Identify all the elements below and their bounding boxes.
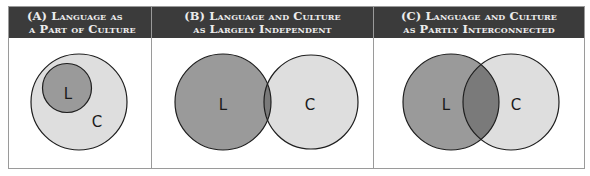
panel-b: (B) Language and Culture as Largely Inde… [152,7,374,168]
language-label: L [64,85,73,103]
culture-label: C [305,96,315,114]
panel-c: (C) Language and Culture as Partly Inter… [374,7,584,168]
panel-a-diagram: L C [9,7,152,170]
language-label: L [219,96,228,114]
culture-label: C [511,96,521,114]
language-label: L [442,96,451,114]
panel-a: (A) Language as a Part of Culture L C [9,7,152,168]
language-culture-figure: (A) Language as a Part of Culture L C (B… [8,6,585,169]
panel-c-diagram: L C [374,7,584,170]
panel-b-diagram: L C [152,7,374,170]
culture-label: C [92,113,102,131]
